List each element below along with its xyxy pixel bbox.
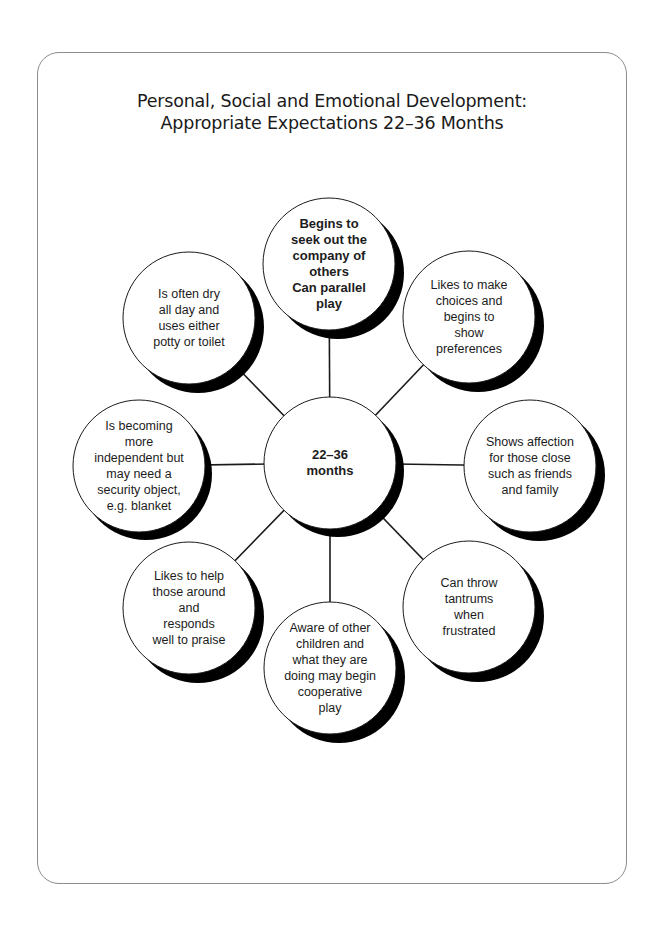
text-line: independent but (94, 450, 184, 466)
text-line: those around (153, 584, 226, 600)
text-line: preferences (430, 341, 507, 357)
text-line: may need a (94, 466, 184, 482)
text-line: and family (486, 482, 574, 498)
node-left-text: Is becoming more independent but may nee… (81, 406, 197, 526)
text-line: Aware of other (284, 620, 376, 636)
text-line: children and (284, 636, 376, 652)
text-line: Likes to make (430, 277, 507, 293)
hub-label-line-1: 22–36 (307, 447, 354, 463)
node-right-text: Shows affection for those close such as … (472, 406, 588, 526)
text-line: play (284, 700, 376, 716)
node-upper-left-text: Is often dry all day and uses either pot… (133, 258, 245, 378)
text-line: tantrums (441, 591, 498, 607)
text-line: company of (291, 248, 367, 264)
text-line: doing may begin (284, 668, 376, 684)
text-line: security object, (94, 482, 184, 498)
node-upper-right-text: Likes to make choices and begins to show… (413, 257, 525, 377)
text-line: others (291, 264, 367, 280)
text-line: e.g. blanket (94, 498, 184, 514)
text-line: frustrated (441, 623, 498, 639)
text-line: more (94, 434, 184, 450)
text-line: Is becoming (94, 418, 184, 434)
hub-label-line-2: months (307, 463, 354, 479)
text-line: for those close (486, 450, 574, 466)
text-line: seek out the (291, 232, 367, 248)
text-line: Can throw (441, 575, 498, 591)
text-line: what they are (284, 652, 376, 668)
text-line: begins to (430, 309, 507, 325)
node-lower-right-text: Can throw tantrums when frustrated (413, 547, 525, 667)
text-line: when (441, 607, 498, 623)
text-line: cooperative (284, 684, 376, 700)
text-line: responds (153, 616, 226, 632)
text-line: all day and (153, 302, 225, 318)
text-line: Likes to help (153, 568, 226, 584)
node-bottom-text: Aware of other children and what they ar… (272, 608, 388, 728)
text-line: play (291, 296, 367, 312)
text-line: uses either (153, 318, 225, 334)
text-line: Is often dry (153, 286, 225, 302)
text-line: and (153, 600, 226, 616)
text-line: such as friends (486, 466, 574, 482)
text-line: Can parallel (291, 280, 367, 296)
text-line: potty or toilet (153, 334, 225, 350)
hub-label: 22–36 months (274, 403, 386, 523)
text-line: choices and (430, 293, 507, 309)
text-line: show (430, 325, 507, 341)
text-line: Shows affection (486, 434, 574, 450)
text-line: Begins to (291, 216, 367, 232)
node-top-text: Begins to seek out the company of others… (273, 204, 385, 324)
text-line: well to praise (153, 632, 226, 648)
node-lower-left-text: Likes to help those around and responds … (133, 548, 245, 668)
